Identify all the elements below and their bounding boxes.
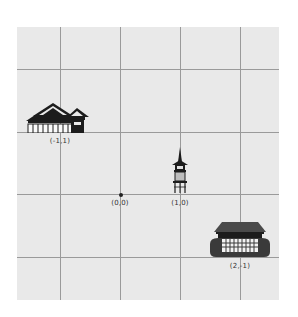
grid-line-x-0 bbox=[120, 27, 121, 300]
grid-line-y-0 bbox=[17, 194, 279, 195]
origin-label: (0,0) bbox=[111, 199, 129, 207]
point-label-2-minus-1: (2,-1) bbox=[230, 262, 250, 270]
pagoda-lantern-icon bbox=[170, 147, 190, 193]
grid-line-y-2 bbox=[17, 69, 279, 70]
origin-dot bbox=[119, 193, 123, 197]
coordinate-grid: (0,0) (-1,1) (1,0) bbox=[17, 27, 279, 300]
kiyomizu-stage-temple-icon bbox=[210, 222, 270, 257]
point-label-minus-1-1: (-1,1) bbox=[50, 137, 70, 145]
grid-line-y-minus-1 bbox=[17, 257, 279, 258]
japanese-temple-hall-icon bbox=[25, 100, 93, 133]
grid-line-x-2 bbox=[240, 27, 241, 300]
grid-line-x-minus-1 bbox=[60, 27, 61, 300]
point-label-1-0: (1,0) bbox=[171, 199, 189, 207]
